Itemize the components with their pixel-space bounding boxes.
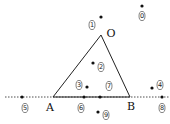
point-label: 0 <box>140 12 144 20</box>
point-9: 9 <box>96 110 109 119</box>
vertices-layer: OAB <box>45 27 135 114</box>
point-7: 7 <box>98 81 112 98</box>
vertex-label-a: A <box>45 101 55 114</box>
points-layer: 0123456789 <box>20 4 165 119</box>
point-dot-icon <box>98 95 101 98</box>
point-label: 5 <box>23 104 27 112</box>
point-dot-icon <box>150 86 153 89</box>
point-label: 8 <box>160 104 164 112</box>
point-3: 3 <box>76 80 89 89</box>
point-label: 3 <box>77 81 81 89</box>
point-label: 6 <box>79 104 83 112</box>
point-label: 9 <box>104 111 108 119</box>
point-dot-icon <box>96 110 99 113</box>
point-dot-icon <box>82 95 85 98</box>
point-dot-icon <box>20 95 23 98</box>
point-4: 4 <box>150 80 163 89</box>
point-dot-icon <box>99 15 102 18</box>
point-2: 2 <box>91 61 104 71</box>
point-label: 2 <box>99 63 103 71</box>
point-dot-icon <box>160 95 163 98</box>
point-8: 8 <box>159 95 165 112</box>
triangle-diagram: OAB 0123456789 <box>0 0 170 124</box>
segment-ob <box>101 35 130 97</box>
vertex-label-o: O <box>106 27 115 40</box>
point-label: 4 <box>158 81 162 89</box>
point-dot-icon <box>140 4 143 7</box>
point-6: 6 <box>78 95 86 112</box>
point-0: 0 <box>139 4 145 20</box>
point-label: 1 <box>90 21 94 29</box>
point-label: 7 <box>107 82 111 90</box>
point-dot-icon <box>85 85 88 88</box>
point-5: 5 <box>20 95 28 112</box>
point-1: 1 <box>89 15 103 29</box>
point-dot-icon <box>91 61 94 64</box>
vertex-label-b: B <box>127 100 135 113</box>
